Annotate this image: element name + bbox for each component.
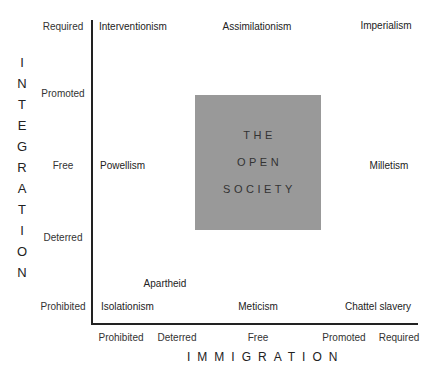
y-title-letter: O (17, 241, 27, 262)
open-society-box: THE OPEN SOCIETY (195, 95, 321, 230)
y-title-letter: A (18, 178, 27, 199)
label-isolationism: Isolationism (101, 301, 154, 312)
x-tick-promoted: Promoted (322, 332, 365, 343)
y-title-letter: T (18, 199, 26, 220)
label-chattel-slavery: Chattel slavery (345, 301, 411, 312)
box-line-open: OPEN (234, 149, 282, 176)
y-title-letter: E (18, 115, 27, 136)
label-apartheid: Apartheid (144, 278, 187, 289)
y-title-letter: I (20, 52, 24, 73)
label-imperialism: Imperialism (360, 20, 411, 31)
label-interventionism: Interventionism (99, 21, 167, 32)
y-tick-free: Free (53, 160, 74, 171)
box-line-society: SOCIETY (220, 176, 296, 203)
y-tick-required: Required (43, 21, 84, 32)
y-tick-prohibited: Prohibited (40, 301, 85, 312)
x-axis-title: IMMIGRATION (187, 350, 344, 364)
box-line-the: THE (240, 122, 276, 149)
x-tick-required: Required (379, 332, 420, 343)
y-tick-deterred: Deterred (44, 232, 83, 243)
y-axis-line (91, 20, 93, 325)
label-powellism: Powellism (100, 160, 145, 171)
y-title-letter: N (17, 73, 26, 94)
label-milletism: Milletism (370, 160, 409, 171)
x-tick-deterred: Deterred (158, 332, 197, 343)
x-tick-free: Free (248, 332, 269, 343)
y-title-letter: T (18, 94, 26, 115)
y-axis-title: I N T E G R A T I O N (14, 52, 30, 283)
y-title-letter: N (17, 262, 26, 283)
y-title-letter: R (17, 157, 26, 178)
label-assimilationism: Assimilationism (223, 21, 292, 32)
x-axis-line (91, 323, 418, 325)
y-title-letter: G (17, 136, 27, 157)
label-meticism: Meticism (238, 301, 277, 312)
x-tick-prohibited: Prohibited (98, 332, 143, 343)
y-title-letter: I (20, 220, 24, 241)
y-tick-promoted: Promoted (41, 88, 84, 99)
